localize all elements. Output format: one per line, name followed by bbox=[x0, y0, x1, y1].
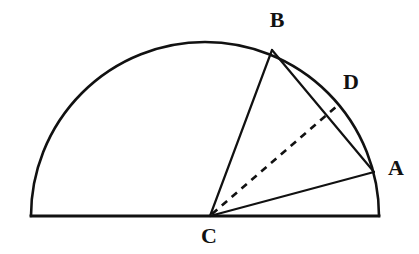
segment-cb bbox=[210, 50, 272, 216]
vertex-label-b: B bbox=[270, 7, 285, 32]
semicircle-arc bbox=[31, 42, 379, 216]
geometry-canvas: B D A C bbox=[0, 0, 419, 254]
vertex-label-d: D bbox=[343, 69, 359, 94]
vertex-label-c: C bbox=[201, 223, 217, 248]
vertex-label-a: A bbox=[388, 155, 404, 180]
geometry-figure: B D A C bbox=[0, 0, 419, 254]
